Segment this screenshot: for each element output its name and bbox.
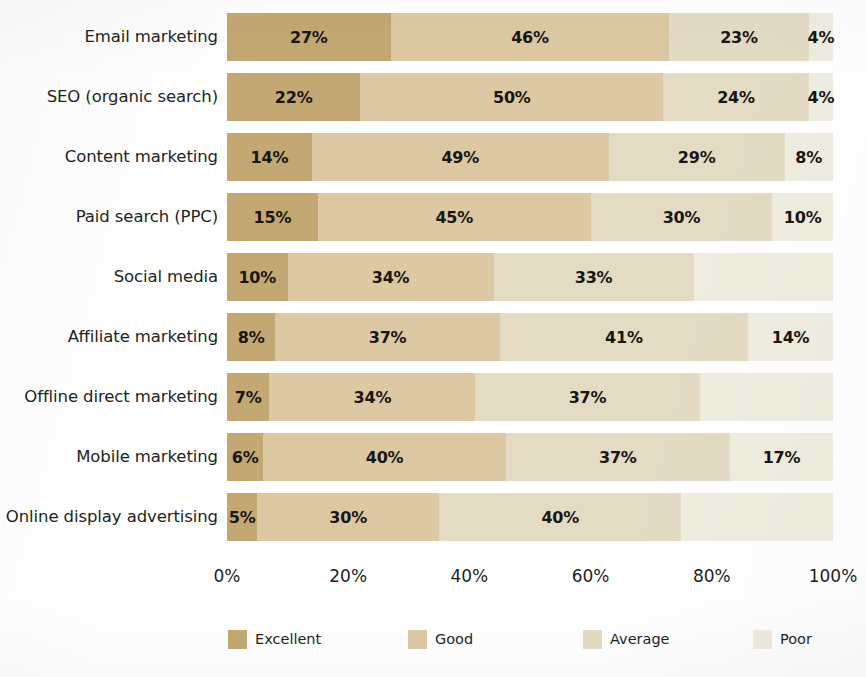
segment-value-label: 10% bbox=[784, 208, 822, 227]
category-label: Offline direct marketing bbox=[0, 373, 218, 421]
segment-value-label: 27% bbox=[290, 28, 328, 47]
bar-segment-good: 40% bbox=[263, 433, 505, 481]
x-axis-tick-label: 0% bbox=[214, 566, 241, 586]
bar-segment-average: 30% bbox=[591, 193, 773, 241]
category-label: Mobile marketing bbox=[0, 433, 218, 481]
bar-segment-excellent: 6% bbox=[227, 433, 263, 481]
legend-label: Poor bbox=[780, 631, 812, 647]
segment-value-label: 37% bbox=[569, 388, 607, 407]
bar-segment-excellent: 8% bbox=[227, 313, 275, 361]
segment-value-label: 6% bbox=[232, 448, 259, 467]
bar-track: 14%49%29%8% bbox=[227, 133, 833, 181]
bar-segment-poor: 14% bbox=[748, 313, 833, 361]
legend-swatch-icon bbox=[583, 630, 602, 649]
bar-segment-good: 50% bbox=[360, 73, 663, 121]
segment-value-label: 24% bbox=[717, 88, 755, 107]
bar-row: Offline direct marketing7%34%37% bbox=[0, 373, 866, 421]
segment-value-label: 46% bbox=[511, 28, 549, 47]
bar-segment-excellent: 14% bbox=[227, 133, 312, 181]
category-label: Content marketing bbox=[0, 133, 218, 181]
legend-item-excellent[interactable]: Excellent bbox=[228, 626, 321, 652]
category-label: SEO (organic search) bbox=[0, 73, 218, 121]
segment-value-label: 22% bbox=[275, 88, 313, 107]
bar-segment-average: 23% bbox=[669, 13, 808, 61]
bar-segment-excellent: 5% bbox=[227, 493, 257, 541]
bar-segment-poor bbox=[700, 373, 833, 421]
bar-row: SEO (organic search)22%50%24%4% bbox=[0, 73, 866, 121]
segment-value-label: 29% bbox=[678, 148, 716, 167]
bar-row: Social media10%34%33% bbox=[0, 253, 866, 301]
bar-segment-good: 45% bbox=[318, 193, 591, 241]
stacked-bar-chart: Email marketing27%46%23%4%SEO (organic s… bbox=[0, 0, 866, 677]
bar-segment-average: 40% bbox=[439, 493, 681, 541]
x-axis-tick-label: 40% bbox=[450, 566, 488, 586]
segment-value-label: 34% bbox=[354, 388, 392, 407]
segment-value-label: 33% bbox=[575, 268, 613, 287]
legend-label: Average bbox=[610, 631, 670, 647]
bar-segment-poor bbox=[694, 253, 833, 301]
bar-segment-average: 37% bbox=[475, 373, 699, 421]
bar-segment-good: 37% bbox=[275, 313, 499, 361]
legend-swatch-icon bbox=[408, 630, 427, 649]
category-label: Social media bbox=[0, 253, 218, 301]
segment-value-label: 4% bbox=[807, 28, 834, 47]
legend-item-poor[interactable]: Poor bbox=[753, 626, 812, 652]
segment-value-label: 15% bbox=[254, 208, 292, 227]
x-axis-tick-label: 80% bbox=[693, 566, 731, 586]
x-axis: 0%20%40%60%80%100% bbox=[227, 566, 833, 594]
segment-value-label: 8% bbox=[795, 148, 822, 167]
segment-value-label: 7% bbox=[235, 388, 262, 407]
bar-segment-excellent: 27% bbox=[227, 13, 391, 61]
bar-segment-poor: 4% bbox=[809, 73, 833, 121]
bar-track: 27%46%23%4% bbox=[227, 13, 833, 61]
bar-track: 8%37%41%14% bbox=[227, 313, 833, 361]
bar-row: Online display advertising5%30%40% bbox=[0, 493, 866, 541]
bar-track: 10%34%33% bbox=[227, 253, 833, 301]
bar-segment-poor: 4% bbox=[809, 13, 833, 61]
x-axis-tick-label: 20% bbox=[329, 566, 367, 586]
category-label: Online display advertising bbox=[0, 493, 218, 541]
bar-row: Email marketing27%46%23%4% bbox=[0, 13, 866, 61]
segment-value-label: 17% bbox=[763, 448, 801, 467]
bar-segment-good: 34% bbox=[269, 373, 475, 421]
segment-value-label: 34% bbox=[372, 268, 410, 287]
bar-segment-average: 41% bbox=[500, 313, 748, 361]
bar-segment-average: 33% bbox=[494, 253, 694, 301]
x-axis-tick-label: 60% bbox=[572, 566, 610, 586]
bar-segment-poor bbox=[681, 493, 833, 541]
category-label: Email marketing bbox=[0, 13, 218, 61]
bar-track: 7%34%37% bbox=[227, 373, 833, 421]
segment-value-label: 40% bbox=[541, 508, 579, 527]
bar-segment-excellent: 22% bbox=[227, 73, 360, 121]
bar-segment-average: 29% bbox=[609, 133, 785, 181]
segment-value-label: 14% bbox=[772, 328, 810, 347]
segment-value-label: 10% bbox=[238, 268, 276, 287]
segment-value-label: 8% bbox=[238, 328, 265, 347]
chart-legend: ExcellentGoodAveragePoor bbox=[0, 626, 866, 656]
legend-label: Good bbox=[435, 631, 473, 647]
bar-segment-good: 34% bbox=[288, 253, 494, 301]
bar-segment-poor: 10% bbox=[772, 193, 833, 241]
segment-value-label: 4% bbox=[807, 88, 834, 107]
category-label: Affiliate marketing bbox=[0, 313, 218, 361]
legend-item-average[interactable]: Average bbox=[583, 626, 670, 652]
legend-item-good[interactable]: Good bbox=[408, 626, 473, 652]
segment-value-label: 37% bbox=[599, 448, 637, 467]
segment-value-label: 14% bbox=[251, 148, 289, 167]
segment-value-label: 30% bbox=[329, 508, 367, 527]
legend-swatch-icon bbox=[228, 630, 247, 649]
bar-track: 5%30%40% bbox=[227, 493, 833, 541]
bar-row: Paid search (PPC)15%45%30%10% bbox=[0, 193, 866, 241]
segment-value-label: 30% bbox=[663, 208, 701, 227]
bar-segment-good: 49% bbox=[312, 133, 609, 181]
bar-track: 6%40%37%17% bbox=[227, 433, 833, 481]
bar-segment-good: 30% bbox=[257, 493, 439, 541]
bar-segment-good: 46% bbox=[391, 13, 670, 61]
bar-segment-poor: 8% bbox=[785, 133, 833, 181]
segment-value-label: 45% bbox=[435, 208, 473, 227]
x-axis-tick-label: 100% bbox=[809, 566, 858, 586]
bar-track: 22%50%24%4% bbox=[227, 73, 833, 121]
bar-segment-excellent: 10% bbox=[227, 253, 288, 301]
bar-row: Affiliate marketing8%37%41%14% bbox=[0, 313, 866, 361]
segment-value-label: 49% bbox=[441, 148, 479, 167]
